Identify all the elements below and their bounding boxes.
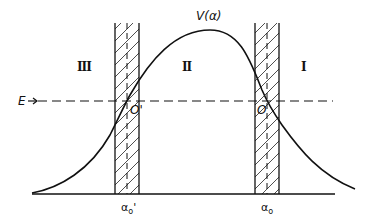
tick-left-subscript: o	[128, 207, 133, 216]
region-label-middle: II	[182, 61, 191, 73]
curve-label: V(α)	[196, 10, 221, 22]
tick-left-prime: '	[133, 201, 136, 214]
potential-barrier-diagram: V(α) III II I E O' O αo' αo	[0, 0, 371, 224]
region-label-right: I	[301, 61, 306, 73]
region-label-left: III	[77, 61, 91, 73]
axis-tick-right: αo	[261, 202, 273, 213]
energy-arrow-icon	[28, 98, 37, 104]
diagram-canvas	[0, 0, 371, 224]
tick-right-subscript: o	[268, 207, 273, 216]
turning-point-right-label: O	[257, 104, 266, 116]
energy-label: E	[18, 95, 26, 107]
potential-curve	[32, 30, 355, 193]
turning-point-left-label: O'	[130, 104, 143, 116]
axis-tick-left: αo'	[121, 202, 136, 213]
